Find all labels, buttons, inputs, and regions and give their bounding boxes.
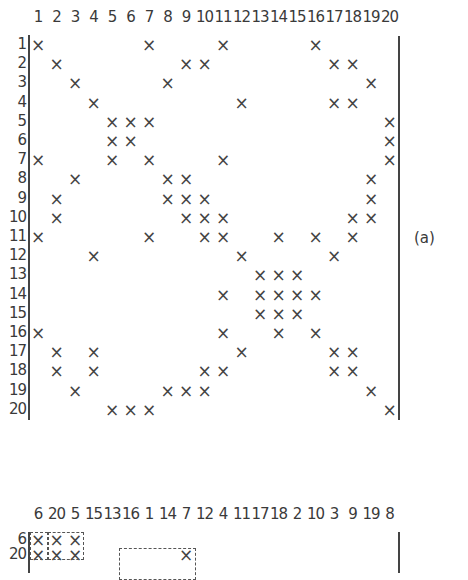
column-label: 2: [287, 505, 307, 523]
column-label: 11: [213, 8, 233, 26]
column-label: 5: [65, 505, 85, 523]
column-label: 14: [269, 8, 289, 26]
matrix-entry-mark: ×: [104, 152, 120, 168]
matrix-entry-mark: ×: [289, 267, 305, 283]
row-label: 20: [0, 402, 26, 417]
column-label: 3: [324, 505, 344, 523]
matrix-entry-mark: ×: [308, 287, 324, 303]
matrix-entry-mark: ×: [363, 210, 379, 226]
matrix-entry-mark: ×: [234, 95, 250, 111]
matrix-entry-mark: ×: [382, 114, 398, 130]
matrix-left-border: [28, 35, 30, 420]
row-label: 14: [0, 287, 26, 302]
matrix-entry-mark: ×: [123, 114, 139, 130]
matrix-entry-mark: ×: [30, 325, 46, 341]
column-label: 1: [139, 505, 159, 523]
column-label: 17: [250, 505, 270, 523]
figure-label: (a): [414, 229, 435, 247]
column-label: 7: [139, 8, 159, 26]
column-label: 15: [84, 505, 104, 523]
matrix-entry-mark: ×: [160, 171, 176, 187]
column-label: 6: [28, 505, 48, 523]
matrix-entry-mark: ×: [271, 287, 287, 303]
row-label: 13: [0, 267, 26, 282]
matrix-entry-mark: ×: [363, 75, 379, 91]
matrix-entry-mark: ×: [326, 56, 342, 72]
row-label: 19: [0, 383, 26, 398]
matrix-entry-mark: ×: [141, 37, 157, 53]
column-label: 12: [195, 505, 215, 523]
row-label: 16: [0, 325, 26, 340]
column-label: 19: [361, 8, 381, 26]
matrix-entry-mark: ×: [363, 191, 379, 207]
matrix-entry-mark: ×: [215, 229, 231, 245]
matrix-entry-mark: ×: [345, 56, 361, 72]
column-label: 18: [343, 8, 363, 26]
column-label: 17: [324, 8, 344, 26]
matrix-entry-mark: ×: [160, 383, 176, 399]
block-outline: [48, 532, 84, 560]
column-label: 11: [232, 505, 252, 523]
matrix-entry-mark: ×: [308, 325, 324, 341]
block-outline: [30, 532, 48, 560]
column-label: 15: [287, 8, 307, 26]
matrix-entry-mark: ×: [326, 363, 342, 379]
matrix-entry-mark: ×: [49, 191, 65, 207]
matrix-entry-mark: ×: [86, 363, 102, 379]
matrix-entry-mark: ×: [49, 56, 65, 72]
matrix-entry-mark: ×: [86, 248, 102, 264]
column-label: 8: [158, 8, 178, 26]
column-label: 20: [380, 8, 400, 26]
row-label: 8: [0, 171, 26, 186]
matrix-entry-mark: ×: [67, 171, 83, 187]
row-label: 7: [0, 152, 26, 167]
matrix-entry-mark: ×: [178, 191, 194, 207]
matrix-entry-mark: ×: [382, 402, 398, 418]
matrix-entry-mark: ×: [49, 363, 65, 379]
matrix-entry-mark: ×: [178, 171, 194, 187]
row-label: 6: [0, 133, 26, 148]
column-label: 14: [158, 505, 178, 523]
matrix-entry-mark: ×: [141, 229, 157, 245]
column-label: 13: [102, 505, 122, 523]
matrix-entry-mark: ×: [326, 248, 342, 264]
matrix-entry-mark: ×: [197, 210, 213, 226]
matrix-entry-mark: ×: [345, 210, 361, 226]
matrix-entry-mark: ×: [197, 56, 213, 72]
matrix-entry-mark: ×: [345, 95, 361, 111]
column-label: 4: [84, 8, 104, 26]
matrix-entry-mark: ×: [363, 383, 379, 399]
row-label: 9: [0, 191, 26, 206]
matrix-entry-mark: ×: [215, 363, 231, 379]
column-label: 8: [380, 505, 400, 523]
matrix-entry-mark: ×: [178, 383, 194, 399]
matrix-entry-mark: ×: [345, 363, 361, 379]
column-label: 9: [343, 505, 363, 523]
matrix-entry-mark: ×: [197, 191, 213, 207]
matrix-entry-mark: ×: [160, 191, 176, 207]
row-label: 15: [0, 306, 26, 321]
matrix-entry-mark: ×: [197, 383, 213, 399]
column-label: 6: [121, 8, 141, 26]
matrix-entry-mark: ×: [141, 152, 157, 168]
matrix-entry-mark: ×: [215, 210, 231, 226]
matrix-entry-mark: ×: [252, 287, 268, 303]
matrix-entry-mark: ×: [326, 95, 342, 111]
matrix-entry-mark: ×: [30, 152, 46, 168]
row-label: 4: [0, 95, 26, 110]
matrix-entry-mark: ×: [49, 210, 65, 226]
matrix-entry-mark: ×: [308, 37, 324, 53]
matrix-entry-mark: ×: [252, 267, 268, 283]
column-label: 16: [121, 505, 141, 523]
matrix-entry-mark: ×: [271, 306, 287, 322]
block-outline: [119, 548, 196, 580]
matrix-entry-mark: ×: [160, 75, 176, 91]
matrix-entry-mark: ×: [197, 363, 213, 379]
column-label: 13: [250, 8, 270, 26]
matrix-entry-mark: ×: [67, 75, 83, 91]
column-label: 20: [47, 505, 67, 523]
matrix-entry-mark: ×: [123, 402, 139, 418]
matrix-entry-mark: ×: [30, 37, 46, 53]
column-label: 9: [176, 8, 196, 26]
matrix-entry-mark: ×: [271, 267, 287, 283]
